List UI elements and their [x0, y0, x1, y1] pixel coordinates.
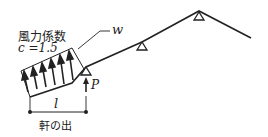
coefficient-value: c =1.5	[18, 41, 58, 55]
reaction-arrowhead-icon	[83, 77, 89, 84]
load-label: w	[112, 22, 123, 37]
length-label: l	[54, 96, 58, 111]
reaction-label: P	[91, 78, 99, 92]
roof-line	[30, 11, 251, 97]
coefficient-text: c =1.5	[18, 41, 58, 55]
load-leader-line	[78, 31, 110, 49]
dimension-point-left	[28, 110, 32, 114]
eave-overhang-label: 軒の出	[39, 117, 72, 133]
dimension-point-right	[84, 110, 88, 114]
